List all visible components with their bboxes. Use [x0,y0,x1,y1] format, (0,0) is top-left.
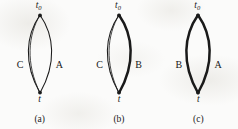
figure-row: t0 t C A (a) t0 t C B [0,0,238,129]
lens-diagram-a [17,13,63,95]
right-arc-label-b: B [135,60,142,70]
lens-svg-a [17,13,63,95]
right-arc-label-a: A [56,60,63,70]
figure-panel-b: t0 t C B (b) [79,0,158,129]
caption-b: (b) [113,115,124,125]
right-arc-c [198,15,210,93]
left-arc-a [28,15,40,93]
bottom-vertex-label-b: t [118,95,121,105]
left-arc-label-a: C [17,60,24,70]
left-arc-label-c: B [175,60,182,70]
caption-c: (c) [193,115,204,125]
right-arc-b [119,15,131,93]
top-vertex-label-a: t0 [36,1,42,11]
right-arc-a [40,15,52,93]
top-vertex-label-b: t0 [115,1,121,11]
lens-svg-c [175,13,221,95]
bottom-vertex-label-c: t [197,95,200,105]
right-arc-label-c: A [214,60,221,70]
figure-panel-a: t0 t C A (a) [0,0,79,129]
lens-svg-b [96,13,142,95]
lens-diagram-b [96,13,142,95]
left-arc-b [107,15,119,93]
caption-a: (a) [34,115,45,125]
top-vertex-dot-a [38,14,42,18]
figure-panel-c: t0 t B A (c) [159,0,238,129]
top-vertex-dot-b [117,14,121,18]
left-arc-c [187,15,199,93]
bottom-vertex-label-a: t [38,95,41,105]
top-vertex-dot-c [196,14,200,18]
top-vertex-label-c: t0 [194,1,200,11]
lens-diagram-c [175,13,221,95]
left-arc-label-b: C [96,60,103,70]
